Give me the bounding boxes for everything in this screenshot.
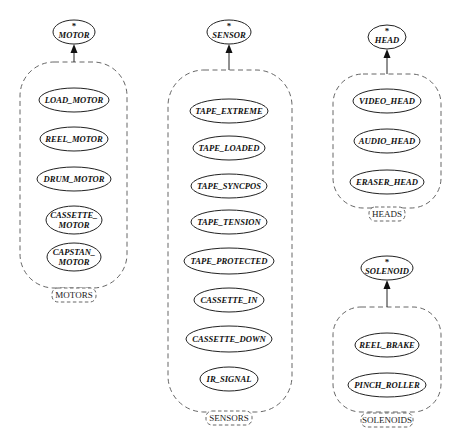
- child-class-label: CASSETTE_IN: [201, 295, 259, 305]
- package-tag-label: MOTORS: [55, 290, 92, 300]
- child-class-label: TAPE_EXTREME: [195, 106, 263, 116]
- child-class-node[interactable]: CASSETTE_IN: [194, 288, 264, 312]
- class-diagram: *MOTORLOAD_MOTORREEL_MOTORDRUM_MOTORCASS…: [0, 0, 469, 441]
- parent-class-sensors[interactable]: *SENSOR: [207, 20, 251, 44]
- child-class-node[interactable]: TAPE_LOADED: [193, 136, 265, 160]
- child-class-node[interactable]: AUDIO_HEAD: [354, 129, 420, 153]
- child-class-label: CASSETTE_DOWN: [192, 334, 266, 344]
- package-tag-label: SENSORS: [209, 413, 249, 423]
- child-class-label: LOAD_MOTOR: [44, 95, 104, 105]
- parent-class-motors[interactable]: *MOTOR: [53, 20, 95, 44]
- arrowhead-icon: [384, 49, 391, 58]
- child-class-node[interactable]: PINCH_ROLLER: [348, 373, 426, 397]
- child-class-label: REEL_MOTOR: [44, 134, 103, 144]
- child-class-label: DRUM_MOTOR: [43, 174, 105, 184]
- group-solenoids: *SOLENOIDREEL_BRAKEPINCH_ROLLERSOLENOIDS: [333, 256, 441, 427]
- arrowhead-icon: [384, 280, 391, 289]
- child-class-label: VIDEO_HEAD: [359, 96, 415, 106]
- child-class-node[interactable]: ERASER_HEAD: [350, 170, 424, 194]
- child-class-label: TAPE_SYNCPOS: [197, 181, 261, 191]
- child-class-node[interactable]: LOAD_MOTOR: [39, 88, 109, 112]
- child-class-node[interactable]: TAPE_PROTECTED: [184, 248, 274, 274]
- parent-class-solenoids[interactable]: *SOLENOID: [361, 256, 413, 280]
- child-class-label: TAPE_PROTECTED: [191, 256, 268, 266]
- child-class-node[interactable]: CAPSTAN_MOTOR: [47, 243, 101, 271]
- parent-class-heads[interactable]: *HEAD: [368, 25, 406, 49]
- heads-package-tag: HEADS: [369, 207, 405, 221]
- group-motors: *MOTORLOAD_MOTORREEL_MOTORDRUM_MOTORCASS…: [20, 20, 127, 302]
- parent-class-label: SENSOR: [212, 30, 246, 40]
- child-class-node[interactable]: VIDEO_HEAD: [353, 89, 421, 113]
- child-class-label: CASSETTE_: [50, 210, 97, 220]
- child-class-label: MOTOR: [58, 220, 90, 230]
- child-class-label: IR_SIGNAL: [206, 374, 252, 384]
- sensors-package-tag: SENSORS: [206, 411, 252, 425]
- child-class-label: AUDIO_HEAD: [358, 136, 415, 146]
- child-class-node[interactable]: TAPE_TENSION: [191, 210, 267, 234]
- child-class-label: REEL_BRAKE: [358, 340, 415, 350]
- group-heads: *HEADVIDEO_HEADAUDIO_HEADERASER_HEADHEAD…: [333, 25, 441, 221]
- child-class-label: ERASER_HEAD: [355, 177, 418, 187]
- child-class-node[interactable]: CASSETTE_DOWN: [186, 326, 272, 352]
- child-class-node[interactable]: REEL_MOTOR: [40, 127, 108, 151]
- child-class-label: CAPSTAN_: [53, 247, 96, 257]
- parent-class-label: HEAD: [374, 35, 399, 45]
- group-sensors: *SENSORTAPE_EXTREMETAPE_LOADEDTAPE_SYNCP…: [168, 20, 292, 425]
- child-class-node[interactable]: REEL_BRAKE: [355, 333, 419, 357]
- child-class-label: PINCH_ROLLER: [354, 380, 420, 390]
- parent-class-label: MOTOR: [58, 30, 90, 40]
- child-class-node[interactable]: TAPE_SYNCPOS: [191, 174, 267, 198]
- parent-class-label: SOLENOID: [365, 266, 409, 276]
- child-class-node[interactable]: IR_SIGNAL: [200, 367, 258, 391]
- child-class-node[interactable]: CASSETTE_MOTOR: [46, 206, 102, 234]
- arrowhead-icon: [226, 44, 233, 53]
- child-class-label: TAPE_LOADED: [198, 143, 259, 153]
- solenoids-package-tag: SOLENOIDS: [361, 413, 413, 427]
- child-class-label: MOTOR: [58, 257, 90, 267]
- arrowhead-icon: [71, 44, 78, 53]
- child-class-node[interactable]: DRUM_MOTOR: [37, 167, 111, 191]
- package-tag-label: SOLENOIDS: [362, 415, 412, 425]
- child-class-node[interactable]: TAPE_EXTREME: [190, 99, 268, 123]
- motors-package-tag: MOTORS: [52, 288, 96, 302]
- package-tag-label: HEADS: [372, 209, 402, 219]
- child-class-label: TAPE_TENSION: [197, 217, 261, 227]
